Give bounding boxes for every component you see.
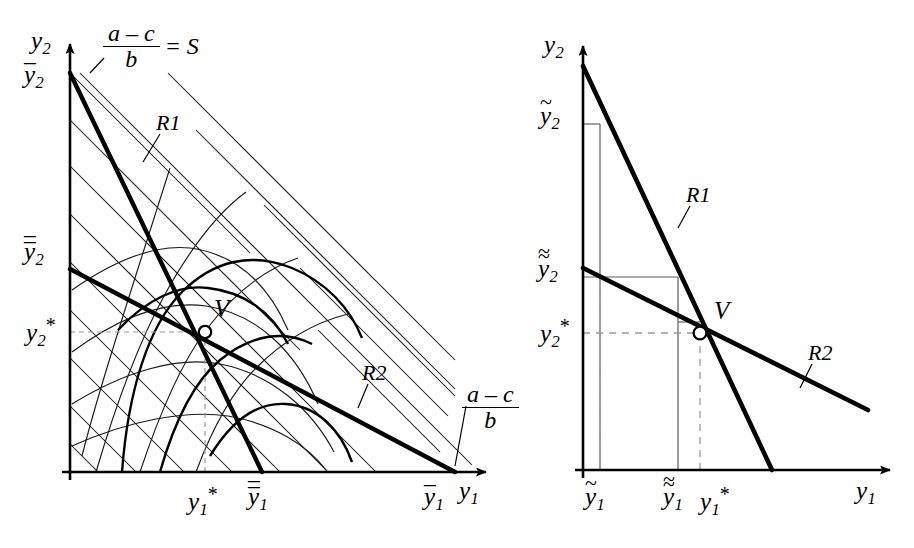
left-S-expression: a – c b = S [103,21,199,73]
iso-surplus-line-short [264,205,455,396]
right-panel-group [575,46,890,478]
left-intercept-expression: a – c b [462,382,519,434]
fraction-a-minus-c-over-b-intercept: a – c b [462,382,519,434]
left-tick-y2-bar: –y2 [24,62,44,91]
fraction-a-minus-c-over-b: a – c b [103,21,160,73]
iso-surplus-outer-line-family [80,73,472,465]
right-tick-y2-star: y2* [540,316,570,350]
right-curve-label-R2: R2 [808,342,832,364]
right-equilibrium-point-V [694,327,707,340]
right-tick-y1-tilde: ~y1 [585,484,605,513]
right-tick-y1-star: y1* [700,484,730,518]
iso-surplus-line [80,73,472,465]
iso-surplus-line-short [300,268,448,416]
left-y-axis-label: y2 [31,28,51,57]
isoprofit-through-equilibrium [118,260,362,472]
left-curve-label-R2: R2 [362,362,386,384]
left-x-axis-label: y1 [459,478,479,507]
isoprofit-curve-firm1 [72,414,326,470]
left-curve-label-R1: R1 [156,112,180,134]
left-tick-y2-double-bar: ––y2 [24,239,44,268]
left-tick-y1-bar: –y1 [424,484,444,513]
right-point-label-V: V [714,298,729,323]
right-tick-y2-tilde: ~y2 [540,103,560,132]
diagram-canvas [0,0,914,548]
left-tick-y1-star: y1* [188,484,218,518]
right-tick-y1-double-tilde: ~~y1 [663,484,683,513]
right-x-axis-label: y1 [856,478,876,507]
right-reaction-curve-R2 [583,268,868,410]
leader-line-S-expression [90,58,104,73]
left-equilibrium-point-V [199,326,211,338]
leader-line-R2-left [358,384,368,408]
right-curve-label-R1: R1 [686,184,710,206]
leader-line-R1-right [678,206,690,228]
figure-root: y2 –y2 ––y2 y2* y1* ––y1 –y1 y1 R1 R2 V … [0,0,914,548]
equals-S-text: = S [165,33,199,60]
iso-surplus-line [70,358,184,472]
iso-surplus-line [70,73,250,253]
isoprofit-curve-firm2 [82,168,170,456]
iso-surplus-line-short [168,73,455,360]
left-point-label-V: V [214,296,229,321]
isoprofit-firm1-family [72,247,334,470]
left-tick-y1-double-bar: ––y1 [248,484,268,513]
left-reaction-curve-R2 [70,269,455,472]
left-panel-group [62,44,486,480]
right-y-axis-label: y2 [544,32,564,61]
right-tick-y2-double-tilde: ~~y2 [538,256,558,285]
left-tick-y2-star: y2* [26,315,56,349]
